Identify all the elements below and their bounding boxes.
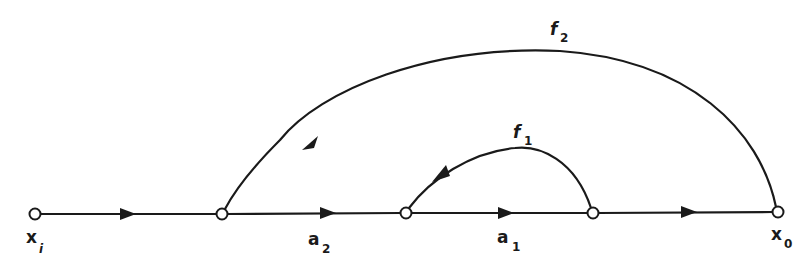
label-a2: a: [308, 229, 319, 249]
arrow-feedback-f1-icon: [432, 165, 450, 182]
arrow-feedback-f2-icon: [302, 136, 318, 150]
label-a1: a: [497, 227, 508, 247]
arrow-right-icon: [498, 207, 514, 219]
signal-flow-graph: x i a 2 a 1 x 0 f 1 f 2: [0, 0, 812, 272]
arrow-right-icon: [120, 208, 136, 220]
label-a2-sub: 2: [322, 242, 330, 256]
label-f2-sub: 2: [560, 31, 568, 45]
node-x0: [773, 207, 784, 218]
arrow-right-icon: [681, 206, 697, 218]
edge-f2-feedback: [225, 50, 776, 209]
node-n1: [217, 209, 228, 220]
node-n3: [588, 208, 599, 219]
label-f1: f: [513, 122, 523, 142]
label-x0-sub: 0: [784, 237, 792, 251]
label-f1-sub: 1: [524, 134, 532, 148]
node-xi: [30, 209, 41, 220]
node-n2: [401, 208, 412, 219]
label-a1-sub: 1: [512, 240, 520, 254]
arrow-right-icon: [320, 207, 336, 219]
label-x0: x: [771, 224, 782, 244]
label-xi-sub: i: [39, 242, 44, 256]
label-f2: f: [550, 19, 560, 39]
label-xi: x: [26, 227, 37, 247]
edge-n1-to-n2: [227, 213, 401, 214]
